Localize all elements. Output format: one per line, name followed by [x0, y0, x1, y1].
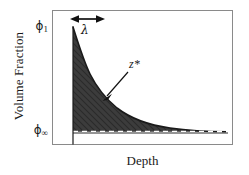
lambda-double-arrow	[70, 15, 105, 22]
y-axis-label: Volume Fraction	[11, 16, 27, 136]
phi-subscript-one: 1	[44, 24, 49, 34]
phi-symbol-top: ϕ	[36, 19, 44, 33]
y-tick-label-phi-1: ϕ1	[24, 20, 48, 34]
zstar-annotation-label: z*	[129, 57, 140, 72]
x-axis-label: Depth	[52, 153, 233, 169]
figure-container: Volume Fraction Depth ϕ1 ϕ∞ λ z*	[0, 0, 249, 175]
phi-symbol-bottom: ϕ	[34, 123, 42, 137]
phi-subscript-infinity: ∞	[42, 128, 48, 138]
zstar-leader-arrow	[103, 72, 129, 101]
y-tick-label-phi-infinity: ϕ∞	[20, 124, 48, 138]
lambda-annotation-label: λ	[81, 23, 89, 37]
curve-fill-area	[73, 27, 228, 132]
